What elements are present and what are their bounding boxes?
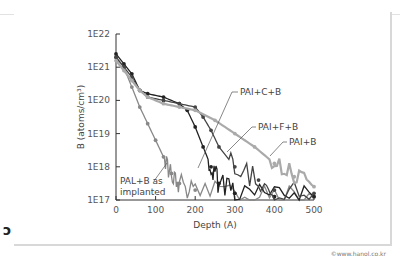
annotation-pai-b: PAI+B — [289, 137, 316, 147]
data-marker — [213, 118, 217, 122]
x-tick-label: 100 — [147, 205, 164, 215]
data-marker — [177, 105, 181, 109]
data-marker — [312, 191, 316, 195]
data-marker — [233, 191, 237, 195]
data-marker — [217, 182, 221, 186]
data-marker — [209, 165, 213, 169]
data-marker — [138, 105, 142, 109]
data-marker — [292, 175, 296, 179]
annotation-as-implanted-2: implanted — [120, 187, 165, 197]
data-marker — [177, 102, 181, 106]
y-tick-label: 1E21 — [87, 62, 110, 72]
data-marker — [217, 145, 221, 149]
y-axis-label: B (atoms/cm³) — [76, 85, 86, 149]
annotation-as-implanted: PAL+B as — [120, 176, 163, 186]
data-marker — [162, 102, 166, 106]
data-marker — [122, 69, 126, 73]
x-tick-label: 400 — [266, 205, 283, 215]
data-marker — [201, 145, 205, 149]
x-tick-label: 200 — [187, 205, 204, 215]
y-tick-label: 1E18 — [87, 162, 110, 172]
annotation-pai-c-b: PAI+C+B — [240, 87, 281, 97]
data-marker — [114, 52, 118, 56]
data-marker — [273, 162, 277, 166]
data-marker — [162, 99, 166, 103]
x-tick-label: 300 — [226, 205, 243, 215]
data-marker — [162, 95, 166, 99]
data-marker — [257, 178, 261, 182]
data-marker — [312, 185, 316, 189]
data-marker — [154, 138, 158, 142]
data-marker — [130, 85, 134, 89]
x-tick-label: 0 — [113, 205, 119, 215]
y-tick-label: 1E19 — [87, 129, 110, 139]
x-axis-label: Depth (A) — [193, 220, 236, 230]
credit-text: ©www.hanol.co.kr — [331, 250, 386, 257]
data-marker — [146, 122, 150, 126]
data-marker — [233, 165, 237, 169]
data-marker — [273, 188, 277, 192]
data-marker — [114, 55, 118, 59]
data-marker — [253, 145, 257, 149]
x-tick-label: 500 — [305, 205, 322, 215]
sims-profile-chart: 1E171E181E191E201E211E220100200300400500… — [0, 0, 400, 268]
data-marker — [162, 155, 166, 159]
data-marker — [177, 182, 181, 186]
y-tick-label: 1E20 — [87, 95, 110, 105]
y-tick-label: 1E17 — [87, 195, 110, 205]
y-tick-label: 1E22 — [87, 29, 110, 39]
data-marker — [146, 95, 150, 99]
annotation-pai-f-b: PAI+F+B — [258, 122, 298, 132]
data-marker — [130, 79, 134, 83]
data-marker — [209, 128, 213, 132]
data-marker — [138, 89, 142, 93]
data-marker — [114, 59, 118, 63]
data-marker — [233, 132, 237, 136]
leader-line — [270, 142, 287, 156]
data-marker — [170, 172, 174, 176]
data-marker — [193, 105, 197, 109]
data-marker — [193, 188, 197, 192]
data-marker — [193, 125, 197, 129]
data-marker — [193, 108, 197, 112]
